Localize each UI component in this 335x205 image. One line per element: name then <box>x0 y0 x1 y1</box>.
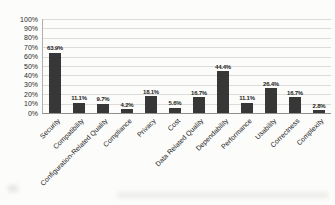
gridline <box>43 104 331 105</box>
gridline <box>43 75 331 76</box>
y-axis-tick-label: 90% <box>0 25 38 32</box>
bar-performance <box>241 103 253 113</box>
y-axis-tick-label: 10% <box>0 100 38 107</box>
bar-value-label: 26.4% <box>263 81 279 87</box>
bar-complexity <box>313 110 325 113</box>
bar-value-label: 44.4% <box>215 64 231 70</box>
bar-compliance <box>121 109 133 113</box>
plot-area: 63.9%11.1%9.7%4.2%18.1%5.6%16.7%44.4%11.… <box>42 19 331 114</box>
scan-artifact-left <box>8 185 18 192</box>
bar-configuration-related-quality <box>97 104 109 113</box>
bar-value-label: 11.1% <box>71 95 87 101</box>
bar-value-label: 16.7% <box>287 90 303 96</box>
x-axis-category-label: Usability <box>253 117 277 141</box>
bar-value-label: 2.8% <box>313 103 326 109</box>
y-axis-tick-label: 100% <box>0 16 38 23</box>
x-axis-category-label: Security <box>38 117 61 140</box>
y-axis-tick-label: 50% <box>0 63 38 70</box>
bar-value-label: 11.1% <box>239 95 255 101</box>
bar-dependability <box>217 71 229 113</box>
bar-value-label: 5.6% <box>169 100 182 106</box>
bar-usability <box>265 88 277 113</box>
y-axis-tick-label: 20% <box>0 91 38 98</box>
gridline <box>43 28 331 29</box>
bar-value-label: 4.2% <box>121 102 134 108</box>
bar-chart-figure: 63.9%11.1%9.7%4.2%18.1%5.6%16.7%44.4%11.… <box>0 0 335 205</box>
gridline <box>43 66 331 67</box>
y-axis-tick-label: 0% <box>0 110 38 117</box>
bar-compatibility <box>73 103 85 113</box>
y-axis-tick-label: 80% <box>0 34 38 41</box>
x-axis-category-label: Privacy <box>136 117 157 138</box>
gridline <box>43 19 331 20</box>
gridline <box>43 85 331 86</box>
scan-artifact-bottom <box>118 192 328 198</box>
x-axis-category-label: Cost <box>166 117 181 132</box>
bar-cost <box>169 108 181 113</box>
bar-data-related-quality <box>193 97 205 113</box>
bar-value-label: 18.1% <box>143 89 159 95</box>
bar-value-label: 16.7% <box>191 90 207 96</box>
bar-privacy <box>145 96 157 113</box>
bar-value-label: 63.9% <box>47 45 63 51</box>
y-axis-tick-label: 30% <box>0 81 38 88</box>
gridline <box>43 57 331 58</box>
gridline <box>43 47 331 48</box>
gridline <box>43 38 331 39</box>
bar-security <box>49 53 61 113</box>
bar-correctness <box>289 97 301 113</box>
y-axis-tick-label: 70% <box>0 44 38 51</box>
y-axis-tick-label: 40% <box>0 72 38 79</box>
y-axis-tick-label: 60% <box>0 53 38 60</box>
bar-value-label: 9.7% <box>97 96 110 102</box>
